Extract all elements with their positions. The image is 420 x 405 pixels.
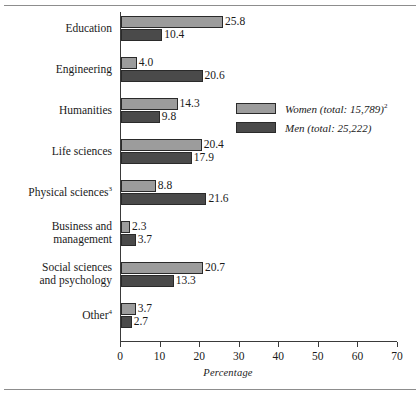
x-tick xyxy=(160,342,161,347)
x-tick-label: 50 xyxy=(312,350,324,362)
x-axis-line xyxy=(120,341,397,342)
bar-men xyxy=(121,193,206,205)
x-tick-label: 20 xyxy=(193,350,205,362)
bar-men xyxy=(121,111,160,123)
legend-item-women: Women (total: 15,789)2 xyxy=(236,100,387,117)
legend-swatch-men-icon xyxy=(236,122,276,133)
legend-label-women-text: Women (total: 15,789) xyxy=(285,103,384,115)
category-label: Other4 xyxy=(82,309,112,322)
chart-legend: Women (total: 15,789)2 Men (total: 25,22… xyxy=(236,100,387,138)
legend-women-footnote: 2 xyxy=(384,102,388,110)
legend-label-women: Women (total: 15,789)2 xyxy=(285,103,387,115)
bar-value-label: 2.3 xyxy=(132,220,146,232)
bar-women xyxy=(121,98,178,110)
bar-value-label: 25.8 xyxy=(225,15,245,27)
category-label: Social sciencesand psychology xyxy=(39,261,112,287)
bar-men xyxy=(121,275,174,287)
x-tick-label: 0 xyxy=(117,350,123,362)
x-tick-label: 30 xyxy=(233,350,245,362)
x-tick xyxy=(397,342,398,347)
x-tick xyxy=(239,342,240,347)
bar-women xyxy=(121,180,156,192)
chart-plot-area: 010203040506070 Percentage EducationEngi… xyxy=(0,0,420,405)
bar-value-label: 8.8 xyxy=(158,179,172,191)
category-label: Education xyxy=(65,22,112,35)
x-tick xyxy=(357,342,358,347)
category-label: Engineering xyxy=(56,63,112,76)
bar-men xyxy=(121,316,132,328)
bar-value-label: 3.7 xyxy=(138,302,152,314)
bar-value-label: 2.7 xyxy=(134,315,148,327)
x-axis-title-text: Percentage xyxy=(203,367,252,378)
category-label: Physical sciences3 xyxy=(28,186,112,199)
bar-men xyxy=(121,234,136,246)
bar-value-label: 10.4 xyxy=(164,28,184,40)
x-tick xyxy=(318,342,319,347)
bar-men xyxy=(121,152,192,164)
bar-value-label: 14.3 xyxy=(180,97,200,109)
bar-women xyxy=(121,139,202,151)
x-tick-label: 60 xyxy=(352,350,364,362)
category-label: Business andmanagement xyxy=(52,220,112,246)
bar-women xyxy=(121,16,223,28)
bar-men xyxy=(121,29,162,41)
bar-value-label: 13.3 xyxy=(176,274,196,286)
x-axis-title: Percentage xyxy=(0,367,420,378)
bar-value-label: 20.4 xyxy=(204,138,224,150)
bar-value-label: 20.6 xyxy=(205,69,225,81)
bar-value-label: 4.0 xyxy=(139,56,153,68)
figure: 010203040506070 Percentage EducationEngi… xyxy=(0,0,420,405)
bar-women xyxy=(121,221,130,233)
x-tick-label: 70 xyxy=(391,350,403,362)
legend-item-men: Men (total: 25,222) xyxy=(236,119,387,136)
x-tick-label: 10 xyxy=(154,350,166,362)
x-tick xyxy=(278,342,279,347)
category-label: Life sciences xyxy=(52,145,112,158)
x-tick xyxy=(120,342,121,347)
bar-value-label: 20.7 xyxy=(205,261,225,273)
x-tick xyxy=(199,342,200,347)
bar-value-label: 3.7 xyxy=(138,233,152,245)
legend-label-men-text: Men (total: 25,222) xyxy=(285,122,371,134)
legend-swatch-women-icon xyxy=(236,103,276,114)
bar-value-label: 9.8 xyxy=(162,110,176,122)
bar-value-label: 17.9 xyxy=(194,151,214,163)
bar-women xyxy=(121,262,203,274)
bar-women xyxy=(121,303,136,315)
x-tick-label: 40 xyxy=(273,350,285,362)
category-label: Humanities xyxy=(59,104,112,117)
bar-men xyxy=(121,70,203,82)
bar-women xyxy=(121,57,137,69)
bar-value-label: 21.6 xyxy=(208,192,228,204)
legend-label-men: Men (total: 25,222) xyxy=(285,122,371,134)
